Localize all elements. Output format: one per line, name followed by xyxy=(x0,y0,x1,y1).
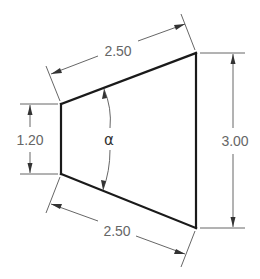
arrow-down-icon xyxy=(231,217,236,227)
angle-dimension: α xyxy=(101,89,114,190)
trapezoid-shape xyxy=(61,53,196,228)
bottom-side-dimension: 2.50 xyxy=(46,177,195,267)
right-height-dimension: 3.00 xyxy=(200,53,249,228)
arrow-right-icon xyxy=(174,249,185,254)
bottom-edge xyxy=(61,174,196,228)
angle-alpha-label: α xyxy=(104,131,114,149)
arrow-down-icon xyxy=(101,180,106,190)
arrow-up-icon xyxy=(28,105,33,115)
arrow-down-icon xyxy=(28,163,33,173)
technical-drawing: 1.20 3.00 2.50 xyxy=(0,0,260,279)
arrow-left-icon xyxy=(51,68,62,74)
left-height-label: 1.20 xyxy=(16,132,43,148)
arrow-up-icon xyxy=(231,54,236,64)
top-side-dimension: 2.50 xyxy=(46,14,195,101)
bottom-side-label: 2.50 xyxy=(103,223,130,239)
top-edge xyxy=(61,53,196,104)
right-height-label: 3.00 xyxy=(221,133,248,149)
arrow-left-icon xyxy=(51,204,62,209)
left-height-dimension: 1.20 xyxy=(16,104,58,174)
top-side-label: 2.50 xyxy=(104,43,131,59)
arrow-right-icon xyxy=(174,24,185,30)
